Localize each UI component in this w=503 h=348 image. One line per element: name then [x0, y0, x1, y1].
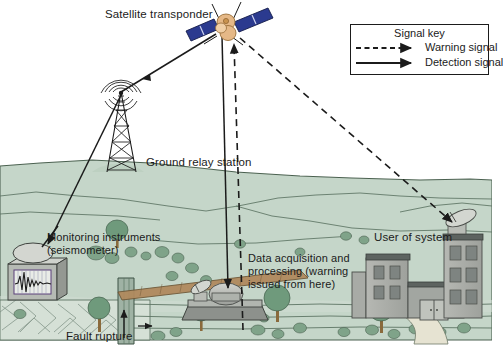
- legend-label-warning-signal: Warning signal: [425, 41, 497, 53]
- label-satellite-transponder: Satellite transponder: [105, 8, 213, 22]
- signal-detection-relay-to-satellite: [121, 34, 216, 92]
- signal-key-legend: Signal key Warning signal: [350, 24, 489, 75]
- legend-label-detection-signal: Detection signal: [425, 56, 503, 68]
- legend-item-warning-signal: Warning signal: [355, 42, 485, 56]
- detection-signal-line-icon: [355, 57, 421, 69]
- ground-relay-tower: [92, 80, 144, 172]
- label-user-of-system: User of system: [374, 231, 452, 245]
- legend-title: Signal key: [351, 27, 488, 39]
- label-data-acquisition: Data acquisition and processing (warning…: [248, 252, 350, 291]
- warning-signal-line-icon: [355, 42, 421, 54]
- label-fault-rupture: Fault rupture: [66, 330, 133, 344]
- label-monitoring-instruments: Monitoring instruments (seismometer): [47, 231, 160, 257]
- label-ground-relay-station: Ground relay station: [146, 156, 252, 170]
- legend-item-detection-signal: Detection signal: [355, 57, 485, 71]
